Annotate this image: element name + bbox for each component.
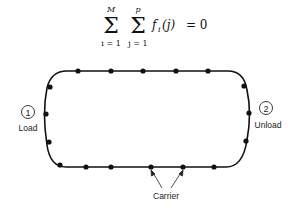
equation-rhs: = 0 bbox=[186, 18, 208, 32]
carrier-dot bbox=[108, 68, 113, 73]
carrier-dot bbox=[108, 164, 113, 169]
carrier-dot bbox=[57, 162, 62, 167]
carrier-dot bbox=[83, 164, 88, 169]
carrier-callout bbox=[151, 170, 183, 188]
carrier-dot bbox=[205, 68, 210, 73]
carrier-dot bbox=[47, 84, 52, 89]
summation-equation: M Σ i = 1 p Σ j = 1 f i (j) = 0 bbox=[101, 5, 207, 48]
outer-sum-lower-limit: i = 1 bbox=[101, 39, 120, 48]
inner-sum-lower-limit: j = 1 bbox=[127, 39, 147, 48]
carrier-label: Carrier bbox=[153, 191, 179, 201]
station-2-label: Unload bbox=[255, 120, 282, 130]
carrier-dot bbox=[241, 83, 246, 88]
station-2-number: 2 bbox=[263, 104, 268, 114]
function-argument: (j) bbox=[162, 18, 175, 32]
carrier-dot bbox=[46, 139, 51, 144]
inner-sigma-symbol: Σ bbox=[130, 13, 146, 38]
carrier-dot bbox=[180, 164, 185, 169]
carrier-dot bbox=[43, 111, 48, 116]
station-1-number: 1 bbox=[25, 108, 30, 118]
carrier-dot bbox=[140, 68, 145, 73]
carrier-dot bbox=[173, 68, 178, 73]
station-unload: 2 Unload bbox=[255, 102, 282, 131]
station-load: 1 Load bbox=[19, 106, 38, 134]
carrier-dot bbox=[75, 68, 80, 73]
station-1-label: Load bbox=[19, 123, 38, 133]
carriers bbox=[43, 68, 251, 169]
carrier-dot bbox=[243, 138, 248, 143]
conveyor-loop-path bbox=[45, 71, 250, 167]
conveyor-loop-diagram: M Σ i = 1 p Σ j = 1 f i (j) = 0 1 Loa bbox=[0, 0, 291, 209]
function-subscript: i bbox=[158, 25, 161, 34]
outer-sigma-symbol: Σ bbox=[103, 13, 119, 38]
carrier-dot bbox=[211, 164, 216, 169]
carrier-dot bbox=[148, 164, 153, 169]
carrier-dot bbox=[246, 110, 251, 115]
